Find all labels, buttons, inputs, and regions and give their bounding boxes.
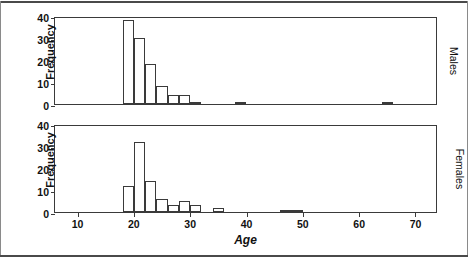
- histogram-bar: [145, 64, 156, 104]
- x-axis-tick: [359, 212, 360, 217]
- plot-area-females: 01020304010203040506070: [55, 126, 436, 212]
- page-rule-bottom: [0, 255, 468, 257]
- panel-tag-males: Males: [448, 47, 460, 75]
- histogram-bar: [292, 210, 303, 212]
- x-axis-tick-label: 40: [241, 218, 253, 230]
- y-axis-tick-label: 0: [43, 100, 49, 112]
- histogram-bar: [190, 205, 201, 212]
- histogram-bar: [235, 102, 246, 104]
- histogram-bar: [145, 181, 156, 212]
- x-axis-tick: [247, 212, 248, 217]
- histogram-bar: [134, 38, 145, 104]
- x-axis-tick-label: 50: [297, 218, 309, 230]
- histogram-bar: [190, 102, 201, 104]
- y-axis-tick: [51, 214, 55, 215]
- histogram-bar: [168, 205, 179, 212]
- x-axis-tick: [303, 212, 304, 217]
- page-rule-top: [0, 1, 468, 3]
- histogram-bar: [123, 20, 134, 104]
- y-axis-title-males: Frequency: [44, 7, 56, 97]
- x-axis-tick-label: 70: [410, 218, 422, 230]
- plot-area-males: 010203040: [55, 18, 436, 104]
- x-axis-title: Age: [54, 233, 437, 247]
- panel-females: 01020304010203040506070 Frequency Female…: [54, 125, 437, 213]
- page-edge-left: [0, 1, 1, 255]
- histogram-figure: 010203040 Frequency Males 01020304010203…: [0, 0, 468, 258]
- x-axis-tick: [190, 212, 191, 217]
- panel-males: 010203040 Frequency Males: [54, 17, 437, 105]
- x-axis-tick-label: 10: [72, 218, 84, 230]
- histogram-bar: [156, 86, 167, 104]
- histogram-bar: [382, 102, 393, 104]
- histogram-bar: [168, 95, 179, 104]
- y-axis-tick: [51, 106, 55, 107]
- histogram-bar: [213, 208, 224, 212]
- panel-tag-females: Females: [454, 149, 466, 189]
- y-axis-title-females: Frequency: [44, 115, 56, 205]
- histogram-bar: [280, 210, 291, 212]
- y-axis-tick-label: 0: [43, 208, 49, 220]
- x-axis-tick: [134, 212, 135, 217]
- histogram-bar: [179, 95, 190, 104]
- histogram-bar: [179, 201, 190, 212]
- histogram-bar: [123, 186, 134, 212]
- x-axis-tick-label: 20: [128, 218, 140, 230]
- x-axis-tick-label: 30: [184, 218, 196, 230]
- x-axis-tick: [78, 212, 79, 217]
- x-axis-tick-label: 60: [353, 218, 365, 230]
- x-axis-tick: [415, 212, 416, 217]
- histogram-bar: [156, 199, 167, 212]
- histogram-bar: [134, 142, 145, 212]
